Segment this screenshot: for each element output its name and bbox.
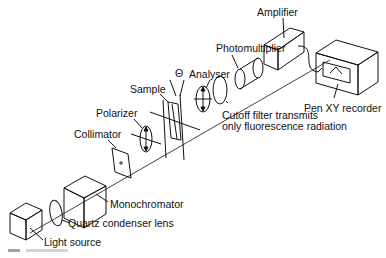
label-photomultiplier: Photomultiplier (216, 43, 285, 54)
collimator (112, 148, 131, 178)
label-amplifier: Amplifier (257, 7, 298, 18)
recorder-box (316, 40, 378, 95)
label-polarizer: Polarizer (96, 108, 137, 119)
diagram: Light source Quartz condenser lens Monoc… (0, 0, 386, 258)
quartz-lens (48, 199, 64, 227)
label-quartz-lens: Quartz condenser lens (68, 218, 174, 229)
label-collimator: Collimator (74, 129, 121, 140)
label-theta: Θ (175, 68, 183, 79)
label-light-source: Light source (44, 237, 101, 248)
figure-caption-cutoff (8, 249, 68, 252)
cutoff-filter (213, 76, 227, 104)
label-recorder: Pen XY recorder (304, 103, 381, 114)
photomultiplier (235, 58, 263, 89)
label-monochromator: Monochromator (110, 199, 184, 210)
label-cutoff-filter-2: only fluorescence radiation (222, 121, 347, 132)
label-sample: Sample (130, 84, 166, 95)
label-analyser: Analyser (189, 69, 230, 80)
